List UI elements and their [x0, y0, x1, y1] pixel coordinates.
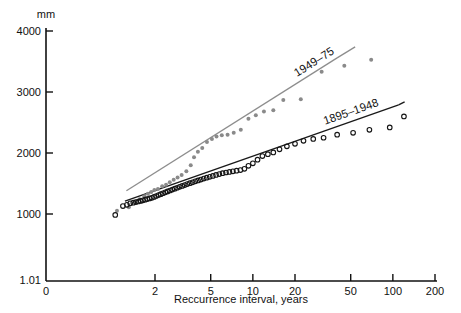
data-point	[196, 150, 200, 154]
data-point	[189, 163, 193, 167]
data-point	[180, 173, 184, 177]
x-axis-title: Reccurrence interval, years	[174, 293, 308, 305]
data-point	[156, 187, 160, 191]
data-point	[215, 135, 219, 139]
y-tick-label: 3000	[17, 86, 41, 98]
x-tick-label: 50	[345, 285, 357, 297]
data-point	[342, 64, 346, 68]
x-tick-label: 0	[43, 285, 49, 297]
data-point	[115, 209, 119, 213]
data-point	[262, 110, 266, 114]
data-point	[172, 178, 176, 182]
y-tick-label: 4000	[17, 25, 41, 37]
data-point	[176, 175, 180, 179]
chart-container: 1000200030004000 025102050100200 mm 1.01…	[0, 0, 461, 313]
data-point	[210, 137, 214, 141]
x-tick-label: 2	[152, 285, 158, 297]
data-point	[320, 70, 324, 74]
y-axis-origin-label: 1.01	[20, 274, 41, 286]
chart-background	[0, 0, 461, 313]
x-tick-label: 200	[426, 285, 444, 297]
data-point	[232, 131, 236, 135]
data-point	[254, 113, 258, 117]
data-point	[200, 146, 204, 150]
data-point	[152, 188, 156, 192]
data-point	[168, 180, 172, 184]
data-point	[299, 97, 303, 101]
x-tick-label: 100	[384, 285, 402, 297]
data-point	[192, 155, 196, 159]
data-point	[246, 117, 250, 121]
data-point	[160, 184, 164, 188]
y-tick-label: 1000	[17, 208, 41, 220]
y-axis-unit-label: mm	[37, 8, 55, 20]
data-point	[271, 108, 275, 112]
data-point	[239, 128, 243, 132]
y-tick-label: 2000	[17, 147, 41, 159]
data-point	[164, 183, 168, 187]
data-point	[226, 133, 230, 137]
data-point	[220, 133, 224, 137]
data-point	[184, 169, 188, 173]
rainfall-recurrence-scatter-chart: 1000200030004000 025102050100200 mm 1.01…	[0, 0, 461, 313]
data-point	[281, 98, 285, 102]
data-point	[369, 58, 373, 62]
data-point	[205, 140, 209, 144]
